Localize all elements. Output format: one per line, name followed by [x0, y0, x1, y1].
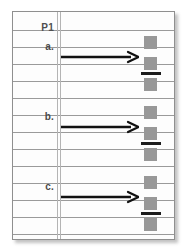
gray-square-icon: [144, 176, 157, 189]
page-header-label: P1: [14, 23, 54, 33]
screenshot-canvas: P1 a.b.c.: [0, 0, 188, 251]
rule-line: [13, 166, 174, 167]
fraction-bar-icon: [141, 72, 161, 75]
row-label-c: c.: [14, 182, 54, 192]
fraction-bar-icon: [141, 142, 161, 145]
row-label-a: a.: [14, 42, 54, 52]
margin-rule-left: [57, 12, 58, 239]
gray-square-icon: [144, 36, 157, 49]
right-arrow-icon-c: [61, 190, 139, 204]
gray-square-icon: [144, 218, 157, 231]
gray-square-icon: [144, 57, 157, 70]
fraction-bar-icon: [141, 212, 161, 215]
right-arrow-icon-a: [61, 50, 139, 64]
gray-square-icon: [144, 106, 157, 119]
notebook-page: P1 a.b.c.: [12, 11, 175, 240]
rule-line: [13, 234, 174, 235]
gray-square-icon: [144, 127, 157, 140]
gray-square-icon: [144, 78, 157, 91]
right-arrow-icon-b: [61, 120, 139, 134]
gray-square-icon: [144, 197, 157, 210]
rule-line: [13, 98, 174, 99]
gray-square-icon: [144, 148, 157, 161]
row-label-b: b.: [14, 112, 54, 122]
